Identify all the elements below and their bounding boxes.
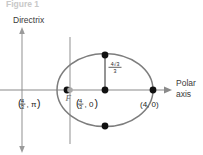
near-vertex-theta: 0 xyxy=(89,100,94,109)
near-vertex-close-paren: ) xyxy=(95,97,99,109)
directrix-label: Directrix xyxy=(13,15,45,25)
point-near-vertex xyxy=(102,87,109,94)
label-left-vertex: ( 4 3 , π ) xyxy=(18,97,41,110)
polar-axis-arrow xyxy=(164,87,172,94)
point-bottom xyxy=(102,123,109,130)
near-vertex-comma: , xyxy=(85,100,87,109)
directrix-arrow-down xyxy=(19,146,25,153)
focus-point xyxy=(67,87,73,93)
directrix-arrow-up xyxy=(19,27,25,34)
semi-minor-numerator: 4√3 xyxy=(111,61,120,67)
focus-label: F xyxy=(65,93,72,103)
point-top xyxy=(102,52,109,59)
near-vertex-denominator: 3 xyxy=(79,104,82,110)
near-vertex-numerator: 4 xyxy=(79,98,82,104)
label-near-vertex: ( 4 3 , 0 ) xyxy=(76,97,98,110)
polar-ellipse-diagram: Figure 1 Directrix F ( xyxy=(0,0,203,155)
polar-axis xyxy=(0,87,172,94)
polar-axis-label-line1: Polar xyxy=(176,78,196,88)
point-right-vertex xyxy=(150,87,157,94)
left-vertex-close-paren: ) xyxy=(37,97,41,109)
figure-caption: Figure 1 xyxy=(6,0,39,9)
semi-minor-denominator: 3 xyxy=(114,68,117,74)
label-semi-minor: 4√3 3 xyxy=(109,61,122,75)
left-vertex-comma: , xyxy=(27,100,29,109)
polar-axis-label-line2: axis xyxy=(176,89,191,99)
left-vertex-numerator: 4 xyxy=(21,98,24,104)
figure-container: Figure 1 Directrix F ( xyxy=(0,0,203,155)
left-vertex-denominator: 3 xyxy=(21,104,24,110)
label-right-vertex: (4, 0) xyxy=(140,100,159,109)
